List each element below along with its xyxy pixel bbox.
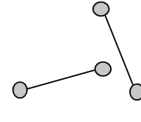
- graph-diagram: [0, 0, 141, 122]
- node-b: [95, 62, 111, 76]
- node-a: [93, 2, 109, 16]
- node-c: [13, 82, 27, 98]
- edge-c-b: [27, 70, 95, 89]
- node-d: [130, 84, 141, 100]
